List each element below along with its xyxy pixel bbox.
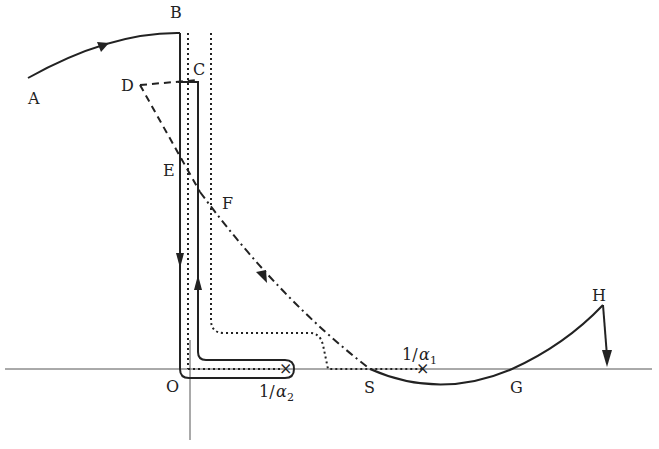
pole-marker-alpha2: × [279, 359, 292, 378]
arrow-H-down [602, 350, 612, 367]
label-G: G [510, 378, 523, 397]
label-E: E [163, 161, 175, 180]
label-pole-alpha2: 1/ α 2 [259, 382, 294, 404]
contour-diagram: × × A B C D E F S G H O 1/ α 2 1/ α 1 [0, 0, 659, 449]
svg-text:α: α [276, 382, 287, 401]
arrow-up [194, 275, 202, 290]
label-pole-alpha1: 1/ α 1 [402, 345, 437, 367]
label-B: B [170, 3, 182, 22]
dashdot-path [200, 192, 370, 369]
label-F: F [222, 194, 233, 213]
label-C: C [193, 60, 205, 79]
svg-text:2: 2 [287, 391, 294, 404]
svg-text:α: α [419, 345, 430, 364]
label-O: O [166, 377, 179, 396]
arrow-down [176, 253, 184, 268]
label-D: D [121, 76, 134, 95]
svg-text:1/: 1/ [402, 345, 418, 364]
label-A: A [27, 89, 40, 108]
svg-text:1/: 1/ [259, 382, 275, 401]
svg-text:1: 1 [430, 354, 437, 367]
arrow-FS [256, 270, 267, 283]
label-H: H [592, 286, 606, 305]
label-S: S [364, 378, 375, 397]
solid-contour [28, 33, 294, 378]
